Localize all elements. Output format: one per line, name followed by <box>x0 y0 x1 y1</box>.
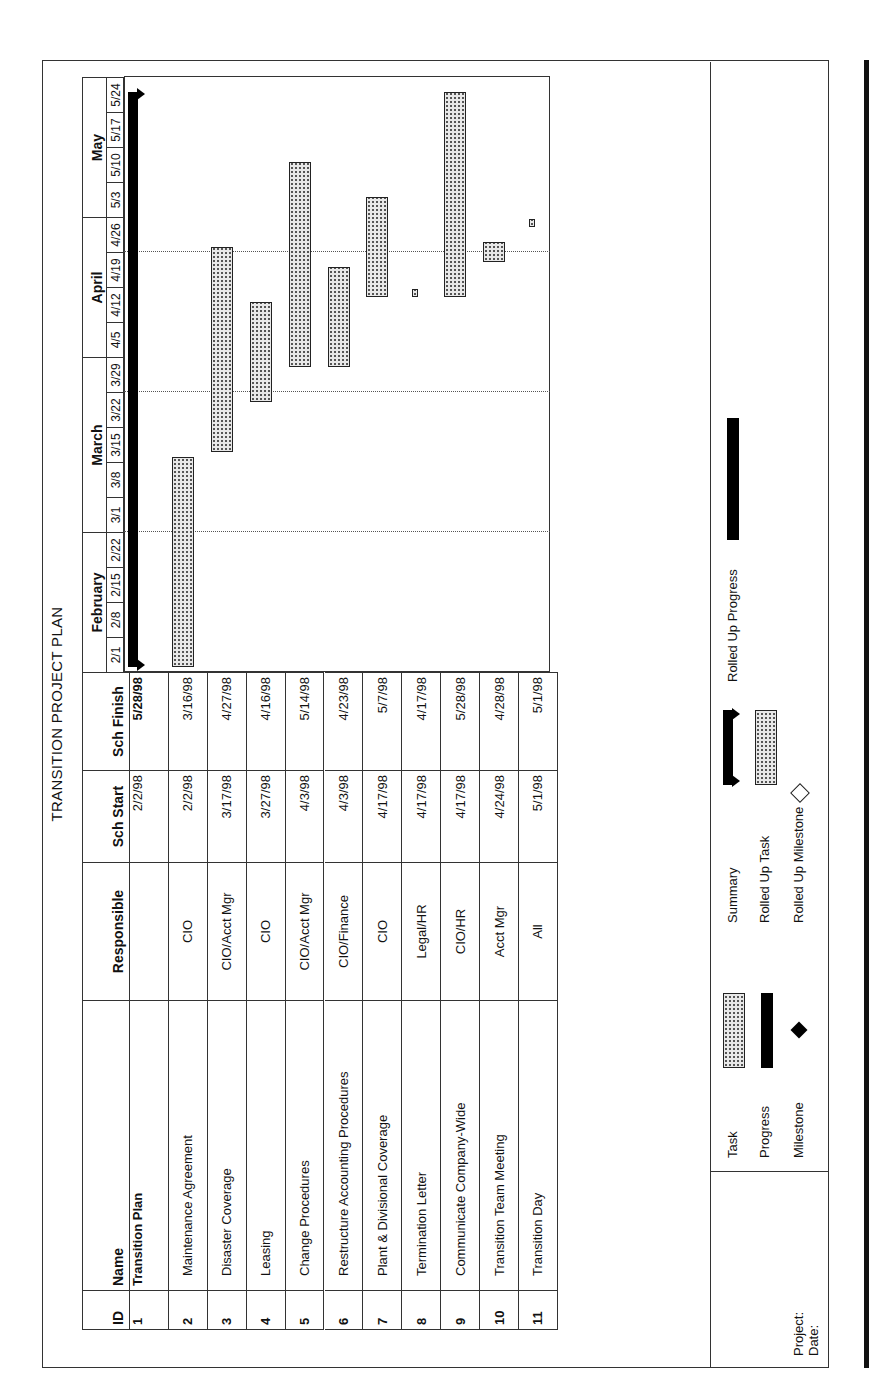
cell-id: 6 <box>325 1290 364 1330</box>
timescale-week: 5/3 <box>106 182 124 217</box>
cell-sch-finish: 4/28/98 <box>480 672 519 770</box>
timescale-week: 5/24 <box>106 77 124 112</box>
cell-responsible: CIO <box>247 862 286 1000</box>
cell-name: Maintenance Agreement <box>169 1000 208 1290</box>
task-bar[interactable] <box>172 457 194 667</box>
date-label: Date: <box>806 1312 821 1356</box>
timescale-week: 4/26 <box>106 217 124 252</box>
cell-sch-finish: 4/16/98 <box>247 672 286 770</box>
cell-name: Transition Plan <box>130 1000 169 1290</box>
timescale-week: 4/5 <box>106 322 124 357</box>
cell-responsible: Acct Mgr <box>480 862 519 1000</box>
cell-id: 3 <box>208 1290 247 1330</box>
cell-responsible: CIO/HR <box>441 862 480 1000</box>
task-bar[interactable] <box>250 302 272 402</box>
column-header-name: Name <box>82 1000 130 1290</box>
column-header-responsible: Responsible <box>82 862 130 1000</box>
task-bar[interactable] <box>444 92 466 297</box>
milestone-diamond-icon <box>791 1022 808 1039</box>
page-bottom-rule <box>864 60 869 1368</box>
legend-progress-label: Progress <box>757 1106 772 1158</box>
cell-sch-start: 4/17/98 <box>363 770 402 862</box>
page-title: TRANSITION PROJECT PLAN <box>48 60 65 1368</box>
cell-responsible: CIO <box>169 862 208 1000</box>
timescale-week: 4/12 <box>106 287 124 322</box>
project-label: Project: <box>791 1312 806 1356</box>
legend-summary-label: Summary <box>725 867 740 923</box>
task-bar[interactable] <box>412 289 418 297</box>
cell-id: 2 <box>169 1290 208 1330</box>
task-bar-swatch-icon <box>723 993 745 1068</box>
cell-id: 5 <box>286 1290 325 1330</box>
legend-task-label: Task <box>725 1131 740 1158</box>
timescale-week: 5/10 <box>106 147 124 182</box>
cell-id: 7 <box>363 1290 402 1330</box>
cell-sch-finish: 5/7/98 <box>363 672 402 770</box>
task-bar[interactable] <box>289 162 311 367</box>
cell-sch-start: 4/24/98 <box>480 770 519 862</box>
cell-id: 11 <box>519 1290 558 1330</box>
cell-sch-finish: 4/27/98 <box>208 672 247 770</box>
timescale-week: 5/17 <box>106 112 124 147</box>
cell-sch-start: 2/2/98 <box>130 770 169 862</box>
timescale-week: 2/15 <box>106 567 124 602</box>
cell-name: Change Procedures <box>286 1000 325 1290</box>
progress-bar-swatch-icon <box>761 993 773 1068</box>
task-bar[interactable] <box>211 247 233 452</box>
summary-bar-swatch-icon <box>723 710 735 785</box>
cell-responsible: CIO/Finance <box>325 862 364 1000</box>
cell-sch-finish: 5/14/98 <box>286 672 325 770</box>
cell-sch-finish: 3/16/98 <box>169 672 208 770</box>
cell-responsible: CIO/Acct Mgr <box>208 862 247 1000</box>
cell-name: Plant & Divisional Coverage <box>363 1000 402 1290</box>
timescale-week: 3/29 <box>106 357 124 392</box>
cell-sch-finish: 5/28/98 <box>441 672 480 770</box>
timescale-week: 4/19 <box>106 252 124 287</box>
cell-responsible: All <box>519 862 558 1000</box>
cell-responsible: CIO/Acct Mgr <box>286 862 325 1000</box>
column-header-id: ID <box>82 1290 130 1330</box>
cell-id: 4 <box>247 1290 286 1330</box>
cell-name: Termination Letter <box>402 1000 441 1290</box>
cell-id: 1 <box>130 1290 169 1330</box>
cell-sch-finish: 5/28/98 <box>130 672 169 770</box>
cell-responsible: CIO <box>363 862 402 1000</box>
cell-id: 10 <box>480 1290 519 1330</box>
timescale-week: 3/8 <box>106 462 124 497</box>
cell-sch-start: 5/1/98 <box>519 770 558 862</box>
gantt-chart: FebruaryMarchAprilMay2/12/82/152/223/13/… <box>82 76 550 672</box>
cell-sch-start: 3/27/98 <box>247 770 286 862</box>
summary-bar[interactable] <box>128 92 146 667</box>
cell-name: Leasing <box>247 1000 286 1290</box>
legend: Project: Date: Task Progress Milestone S… <box>710 62 828 1368</box>
task-bar[interactable] <box>366 197 388 297</box>
timescale-week: 2/1 <box>106 637 124 672</box>
column-header-sch-start: Sch Start <box>82 770 130 862</box>
cell-sch-start: 4/3/98 <box>286 770 325 862</box>
task-bar[interactable] <box>529 219 535 227</box>
cell-sch-finish: 4/17/98 <box>402 672 441 770</box>
rolled-up-task-swatch-icon <box>755 710 777 785</box>
cell-sch-start: 4/17/98 <box>402 770 441 862</box>
timescale-week: 3/15 <box>106 427 124 462</box>
cell-name: Disaster Coverage <box>208 1000 247 1290</box>
cell-id: 8 <box>402 1290 441 1330</box>
cell-name: Communicate Company-Wide <box>441 1000 480 1290</box>
cell-sch-start: 4/3/98 <box>325 770 364 862</box>
cell-responsible: Legal/HR <box>402 862 441 1000</box>
legend-rolled-up-milestone-label: Rolled Up Milestone <box>791 807 806 923</box>
timescale-month: May <box>82 77 106 217</box>
cell-responsible <box>130 862 169 1000</box>
legend-milestone-label: Milestone <box>791 1102 806 1158</box>
rolled-up-progress-swatch-icon <box>727 418 739 540</box>
rotated-page: TRANSITION PROJECT PLAN ID Name Responsi… <box>42 60 829 1368</box>
task-bar[interactable] <box>483 242 505 262</box>
cell-sch-finish: 4/23/98 <box>325 672 364 770</box>
rolled-up-milestone-diamond-icon <box>790 783 810 803</box>
month-gridline <box>124 391 550 392</box>
timescale-month: March <box>82 357 106 532</box>
cell-sch-start: 3/17/98 <box>208 770 247 862</box>
cell-sch-finish: 5/1/98 <box>519 672 558 770</box>
task-bar[interactable] <box>328 267 350 367</box>
timescale-week: 2/22 <box>106 532 124 567</box>
